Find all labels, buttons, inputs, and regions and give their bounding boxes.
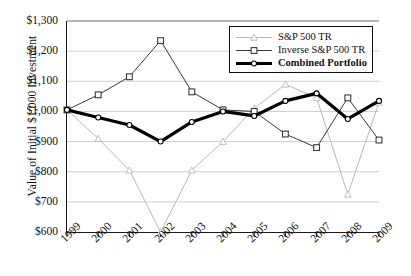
- data-point-marker: [127, 122, 132, 127]
- data-point-marker: [345, 95, 351, 101]
- legend-item[interactable]: Combined Portfolio: [234, 56, 367, 69]
- data-point-marker: [314, 91, 319, 96]
- data-point-marker: [377, 98, 382, 103]
- data-point-marker: [283, 131, 289, 137]
- legend-swatch: [234, 30, 274, 43]
- data-point-marker: [282, 81, 289, 87]
- legend-label: S&P 500 TR: [274, 31, 332, 42]
- data-point-marker: [221, 109, 226, 114]
- data-point-marker: [252, 61, 257, 66]
- legend-item[interactable]: Inverse S&P 500 TR: [234, 43, 367, 56]
- data-point-marker: [65, 107, 70, 112]
- data-point-marker: [345, 191, 352, 197]
- legend-swatch: [234, 43, 274, 56]
- data-point-marker: [189, 89, 195, 95]
- legend-item[interactable]: S&P 500 TR: [234, 30, 367, 43]
- series-line: [67, 93, 379, 141]
- data-point-marker: [376, 137, 382, 143]
- y-tick-label: $1,100: [12, 75, 58, 87]
- y-tick-label: $900: [12, 136, 58, 148]
- legend-label: Combined Portfolio: [274, 57, 367, 68]
- y-tick-label: $800: [12, 166, 58, 178]
- y-tick-label: $1,300: [12, 15, 58, 27]
- x-axis-tick-labels: 1999200020012002200320042005200620072008…: [0, 232, 411, 276]
- chart-legend: S&P 500 TRInverse S&P 500 TRCombined Por…: [229, 26, 373, 73]
- data-point-marker: [252, 113, 257, 118]
- data-point-marker: [158, 38, 164, 44]
- data-point-marker: [95, 92, 101, 98]
- data-point-marker: [189, 119, 194, 124]
- data-point-marker: [251, 48, 257, 54]
- data-point-marker: [96, 115, 101, 120]
- y-tick-label: $1,200: [12, 45, 58, 57]
- data-point-marker: [345, 116, 350, 121]
- data-point-marker: [127, 74, 133, 80]
- y-tick-label: $700: [12, 196, 58, 208]
- data-point-marker: [158, 139, 163, 144]
- data-point-marker: [314, 145, 320, 151]
- data-point-marker: [283, 98, 288, 103]
- legend-label: Inverse S&P 500 TR: [274, 44, 365, 55]
- y-tick-label: $1,000: [12, 105, 58, 117]
- legend-swatch: [234, 56, 274, 69]
- chart-container: Value of Initial $1,000 Investment $600$…: [0, 0, 411, 276]
